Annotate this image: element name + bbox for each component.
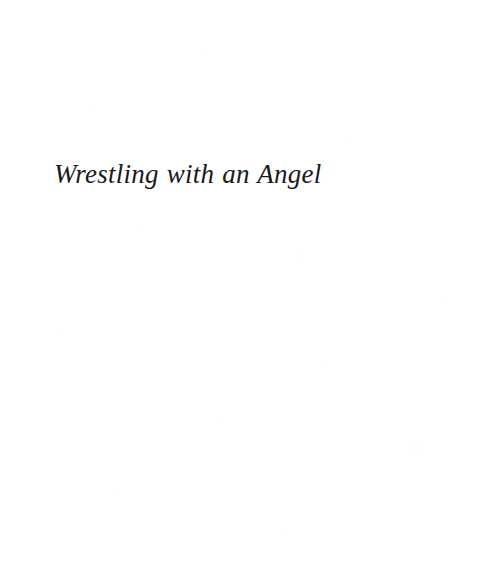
- part-title-text: Wrestling with an Angel: [54, 159, 322, 189]
- paper-grain-texture: [0, 0, 495, 582]
- scanned-book-page: Wrestling with an Angel: [0, 0, 495, 582]
